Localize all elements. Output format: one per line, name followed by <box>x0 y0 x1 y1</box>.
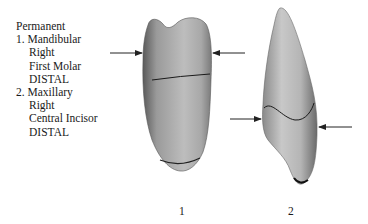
tooth-1-molar <box>143 18 212 171</box>
figure-label-1: 1 <box>179 205 185 217</box>
tooth-illustrations <box>0 0 368 224</box>
tooth-2-incisor <box>263 8 318 184</box>
figure-label-2: 2 <box>288 205 294 217</box>
